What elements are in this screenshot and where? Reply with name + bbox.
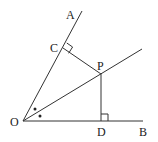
label-A: A bbox=[66, 8, 75, 22]
label-O: O bbox=[10, 115, 19, 129]
segment-CP bbox=[63, 48, 101, 74]
label-C: C bbox=[50, 41, 58, 55]
bisector-ray bbox=[23, 49, 142, 121]
right-angle-mark-D bbox=[101, 114, 108, 121]
angle-mark-dot-POB bbox=[39, 115, 42, 118]
label-B: B bbox=[139, 125, 147, 139]
label-D: D bbox=[97, 125, 106, 139]
geometry-diagram: A C P O D B bbox=[0, 0, 158, 142]
angle-mark-dot-AOP bbox=[34, 108, 37, 111]
label-P: P bbox=[97, 59, 104, 73]
ray-OA bbox=[23, 11, 82, 121]
